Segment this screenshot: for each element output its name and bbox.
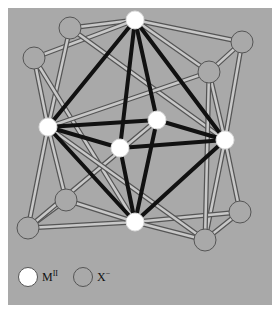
- anion-sphere: [23, 47, 45, 69]
- legend-item-cation: MII: [18, 265, 58, 289]
- anion-sphere: [17, 217, 39, 239]
- anion-sphere: [231, 31, 253, 53]
- cation-legend-icon: [18, 267, 38, 287]
- cation-sphere: [148, 111, 166, 129]
- anion-sphere: [198, 61, 220, 83]
- anion-sphere: [55, 189, 77, 211]
- legend-item-anion: X−: [73, 265, 110, 289]
- anion-bond: [135, 212, 240, 222]
- cation-sphere: [126, 11, 144, 29]
- anion-sphere: [229, 201, 251, 223]
- metal-bond: [120, 20, 135, 148]
- legend-label-cation: MII: [42, 269, 58, 285]
- cation-sphere: [216, 131, 234, 149]
- anion-sphere: [194, 229, 216, 251]
- cation-sphere: [111, 139, 129, 157]
- anion-sphere: [59, 17, 81, 39]
- cation-sphere: [39, 118, 57, 136]
- legend-label-anion: X−: [97, 269, 110, 285]
- anion-legend-icon: [73, 267, 93, 287]
- cation-sphere: [126, 213, 144, 231]
